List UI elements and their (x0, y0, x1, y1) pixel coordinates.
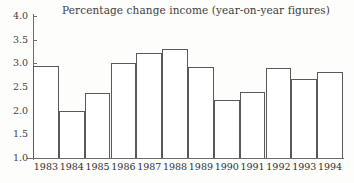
x-axis-label-1983: 1983 (33, 161, 59, 172)
bar-1991 (240, 92, 266, 158)
y-axis-tick-mark (33, 158, 37, 159)
y-axis-tick-label: 1.5 (0, 128, 28, 139)
y-axis-tick-label: 2.0 (0, 105, 28, 116)
y-axis-tick-label: 3.0 (0, 57, 28, 68)
bar-1994 (317, 72, 343, 158)
bar-1990 (214, 100, 240, 158)
x-axis-label-1988: 1988 (162, 161, 188, 172)
x-axis-label-1986: 1986 (111, 161, 137, 172)
x-axis-label-1993: 1993 (291, 161, 317, 172)
bar-1987 (136, 53, 162, 158)
chart-figure: Percentage change income (year-on-year f… (0, 0, 354, 183)
bar-1989 (188, 67, 214, 158)
x-axis-line (27, 158, 344, 159)
x-axis-label-1994: 1994 (317, 161, 343, 172)
y-axis-tick-label: 4.0 (0, 10, 28, 21)
x-axis-label-1989: 1989 (188, 161, 214, 172)
bar-1983 (33, 66, 59, 158)
x-axis-label-1992: 1992 (266, 161, 292, 172)
x-axis-label-1991: 1991 (240, 161, 266, 172)
chart-title: Percentage change income (year-on-year f… (56, 4, 336, 16)
bar-1992 (266, 68, 292, 158)
x-axis-label-1984: 1984 (59, 161, 85, 172)
y-axis-tick-label: 2.5 (0, 81, 28, 92)
y-axis-tick-label: 1.0 (0, 152, 28, 163)
bar-1986 (111, 63, 137, 158)
bar-1984 (59, 111, 85, 158)
x-axis-label-1985: 1985 (85, 161, 111, 172)
x-axis-label-1987: 1987 (136, 161, 162, 172)
y-axis-tick-label: 3.5 (0, 34, 28, 45)
bar-1993 (291, 79, 317, 158)
plot-area (33, 16, 343, 158)
bar-1985 (85, 93, 111, 158)
x-axis-label-1990: 1990 (214, 161, 240, 172)
bar-1988 (162, 49, 188, 158)
